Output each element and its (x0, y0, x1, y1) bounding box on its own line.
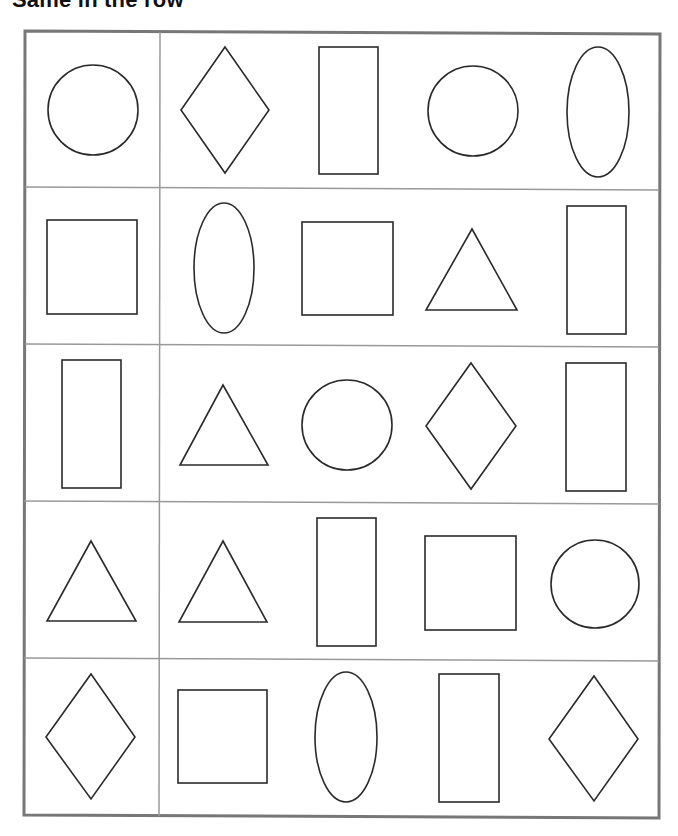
row-1-ellipse-icon[interactable] (567, 47, 629, 177)
row-5 (46, 672, 638, 802)
row-divider-2 (25, 344, 659, 347)
row-4-reference-triangle-icon[interactable] (47, 541, 136, 621)
row-5-square-icon[interactable] (178, 690, 267, 783)
row-3-circle-icon[interactable] (302, 380, 392, 470)
row-2-square-icon[interactable] (302, 222, 393, 315)
row-divider-1 (25, 187, 659, 190)
row-2 (47, 203, 626, 334)
row-2-ellipse-icon[interactable] (194, 203, 254, 333)
row-1-reference-circle-icon[interactable] (48, 65, 138, 155)
row-2-rectangle-icon[interactable] (567, 206, 626, 334)
row-4-rectangle-icon[interactable] (317, 518, 376, 646)
row-5-rectangle-icon[interactable] (439, 674, 499, 802)
worksheet-outer-border (24, 31, 660, 818)
row-4 (47, 518, 639, 646)
row-5-diamond-icon[interactable] (549, 676, 638, 801)
row-3-rectangle-icon[interactable] (566, 363, 626, 491)
row-1-circle-icon[interactable] (428, 66, 518, 156)
row-3 (62, 360, 626, 491)
row-5-ellipse-icon[interactable] (315, 672, 377, 802)
row-4-circle-icon[interactable] (551, 540, 639, 628)
row-3-triangle-icon[interactable] (180, 385, 268, 465)
row-4-triangle-icon[interactable] (179, 541, 267, 622)
shape-matching-worksheet (0, 0, 678, 836)
row-divider-4 (24, 658, 659, 661)
row-2-triangle-icon[interactable] (426, 229, 517, 310)
row-2-reference-square-icon[interactable] (47, 220, 137, 314)
row-1-diamond-icon[interactable] (181, 47, 269, 173)
row-5-reference-diamond-icon[interactable] (46, 674, 135, 799)
row-1 (48, 47, 629, 177)
row-3-diamond-icon[interactable] (426, 363, 516, 489)
row-4-square-icon[interactable] (425, 536, 516, 630)
row-3-reference-rectangle-icon[interactable] (62, 360, 121, 488)
column-divider (159, 32, 160, 816)
row-1-rectangle-icon[interactable] (319, 47, 378, 174)
row-divider-3 (24, 501, 659, 504)
